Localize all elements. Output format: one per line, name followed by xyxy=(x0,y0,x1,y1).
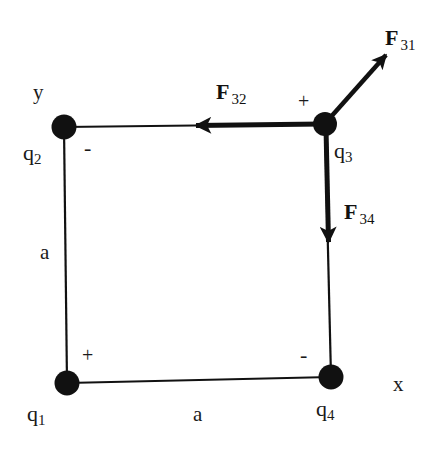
side-left xyxy=(64,127,67,383)
charge-label-q4: q4 xyxy=(316,396,335,423)
force-label-f34: F34 xyxy=(344,199,375,227)
force-arrow-f32 xyxy=(196,124,322,126)
side-bottom xyxy=(67,377,331,383)
charge-label-q1: q1 xyxy=(27,401,46,428)
coulomb-square-diagram: y x a a q1 q2 q3 q4 + - + - F31 F32 F34 xyxy=(0,0,438,454)
side-length-left: a xyxy=(40,240,50,264)
side-length-bottom: a xyxy=(193,402,203,426)
square-frame xyxy=(64,124,331,383)
charge-label-q3: q3 xyxy=(334,138,353,165)
charge-dot-q1 xyxy=(55,371,80,396)
charge-dot-q4 xyxy=(319,365,344,390)
force-arrow-f31 xyxy=(329,55,386,119)
sign-q3: + xyxy=(298,90,309,112)
sign-q4: - xyxy=(300,342,307,367)
charge-dot-q3 xyxy=(313,112,337,136)
force-label-f32: F32 xyxy=(216,79,246,107)
sign-q1: + xyxy=(82,344,93,366)
axis-label-y: y xyxy=(33,80,44,104)
force-arrow-f34 xyxy=(326,128,329,242)
sign-q2: - xyxy=(84,135,91,160)
charge-dot-q2 xyxy=(52,115,77,140)
axis-label-x: x xyxy=(393,372,404,396)
charge-label-q2: q2 xyxy=(23,140,42,167)
force-label-f31: F31 xyxy=(385,25,415,53)
